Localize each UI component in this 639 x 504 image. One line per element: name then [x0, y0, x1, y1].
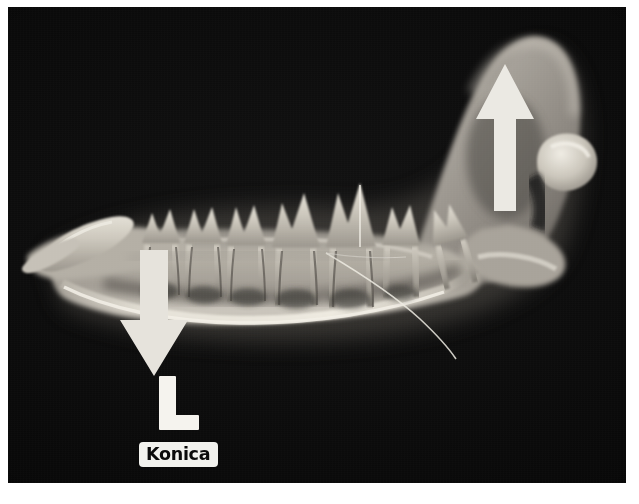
up-arrow-annotation [474, 61, 536, 213]
film-frame: Konica [8, 7, 626, 483]
manufacturer-label-text: Konica [146, 446, 210, 463]
radiograph-viewport: Konica [0, 0, 639, 504]
down-arrow-annotation [118, 250, 190, 378]
left-side-marker [154, 375, 200, 431]
manufacturer-label: Konica [139, 442, 218, 467]
